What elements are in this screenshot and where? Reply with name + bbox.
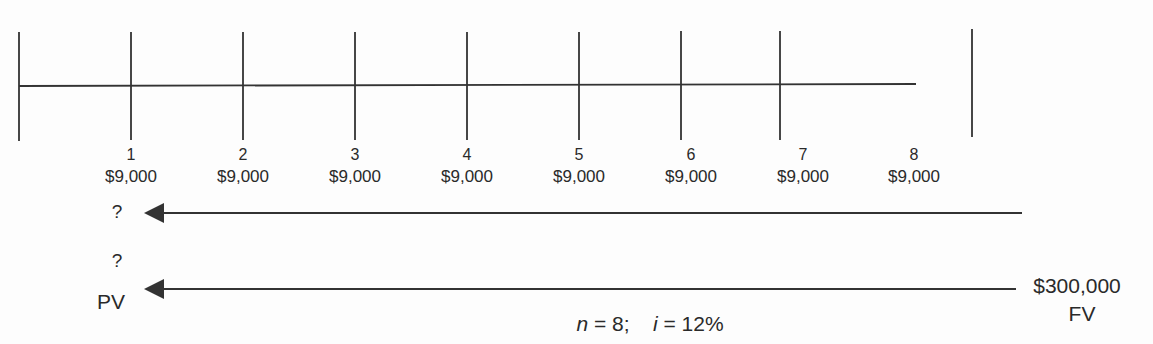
annuity-arrowhead-icon <box>144 203 164 223</box>
lumpsum-arrowhead-icon <box>144 279 164 299</box>
period-label: 2 <box>239 146 248 164</box>
annuity-unknown: ? <box>112 201 123 223</box>
cash-flow-amount: $9,000 <box>665 167 717 187</box>
i-value: = 12% <box>658 312 724 335</box>
period-label: 6 <box>687 146 696 164</box>
cash-flow-amount: $9,000 <box>777 167 829 187</box>
fv-amount: $300,000 <box>1033 274 1121 298</box>
period-label: 7 <box>799 146 808 164</box>
pv-label: PV <box>97 290 125 314</box>
cash-flow-amount: $9,000 <box>217 167 269 187</box>
pv-unknown: ? <box>112 250 123 272</box>
fv-label: FV <box>1069 302 1096 326</box>
cash-flow-amount: $9,000 <box>441 167 493 187</box>
cash-flow-diagram: 1 $9,000 2 $9,000 3 $9,000 4 $9,000 5 $9… <box>0 0 1153 344</box>
cash-flow-amount: $9,000 <box>888 167 940 187</box>
period-label: 3 <box>351 146 360 164</box>
period-label: 1 <box>127 146 136 164</box>
cash-flow-amount: $9,000 <box>553 167 605 187</box>
cash-flow-amount: $9,000 <box>105 167 157 187</box>
period-label: 5 <box>575 146 584 164</box>
formula-text: n = 8; i = 12% <box>576 312 723 336</box>
period-label: 4 <box>463 146 472 164</box>
cash-flow-amount: $9,000 <box>329 167 381 187</box>
n-value: = 8; <box>588 312 629 335</box>
period-label: 8 <box>910 146 919 164</box>
n-variable: n <box>576 312 588 335</box>
